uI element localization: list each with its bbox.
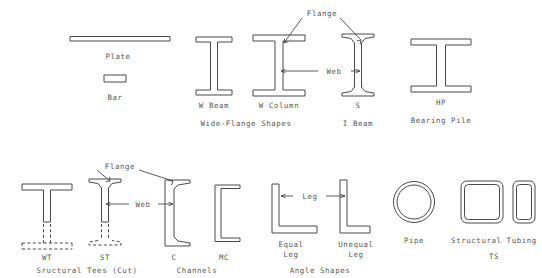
wt-tee-shape <box>22 184 72 249</box>
web-annotation-top: Web <box>326 67 341 76</box>
wide-flange-group-label: Wide-Flange Shapes <box>201 119 292 129</box>
equal-leg-label-line1: Equal <box>278 240 303 250</box>
st-tee-shape <box>89 179 121 245</box>
channels-group-label: Channels <box>177 266 217 276</box>
structural-tubing-group-label: Structural Tubing <box>451 236 537 246</box>
hp-shape <box>411 39 471 92</box>
bearing-pile-group-label: Bearing Pile <box>411 116 472 126</box>
steel-shapes-diagram: Flange Web Plate Bar W Beam W Column S H… <box>0 0 542 278</box>
unequal-leg-label-line1: Unequal <box>338 240 373 250</box>
pipe-shape <box>394 182 435 223</box>
s-shape-label: S <box>355 101 360 111</box>
ts-group-label: TS <box>489 252 499 262</box>
square-tube-shape <box>461 181 503 223</box>
web-annotation-bottom: Web <box>135 200 150 209</box>
mc-channel-shape <box>215 185 240 242</box>
bar-shape <box>104 75 126 82</box>
st-label: ST <box>100 253 110 263</box>
c-channel-label: C <box>171 253 176 263</box>
w-beam-shape <box>196 37 232 95</box>
angle-shapes-group-label: Angle Shapes <box>290 266 351 276</box>
c-channel-shape <box>165 180 190 246</box>
web-leader-lines-top <box>281 69 360 72</box>
mc-channel-label: MC <box>219 253 229 263</box>
structural-tees-group-label: Sructural Tees (Cut) <box>37 266 138 276</box>
plate-shape <box>70 37 170 42</box>
i-beam-group-label: I Beam <box>343 119 373 129</box>
unequal-leg-label-line2: Leg <box>348 250 363 260</box>
bar-label: Bar <box>107 93 122 103</box>
flange-annotation-bottom: Flange <box>105 162 135 171</box>
w-column-shape <box>253 35 305 96</box>
wt-label: WT <box>42 253 52 263</box>
s-shape <box>342 34 374 96</box>
hp-label: HP <box>436 98 446 108</box>
unequal-leg-angle-shape <box>340 180 370 233</box>
equal-leg-label-line2: Leg <box>283 250 298 260</box>
w-column-label: W Column <box>259 101 299 111</box>
plate-label: Plate <box>105 52 130 62</box>
leg-annotation: Leg <box>302 192 317 201</box>
pipe-label: Pipe <box>404 236 424 246</box>
rectangular-tube-shape <box>513 181 535 223</box>
w-beam-label: W Beam <box>199 101 229 111</box>
flange-annotation-top: Flange <box>307 9 337 18</box>
